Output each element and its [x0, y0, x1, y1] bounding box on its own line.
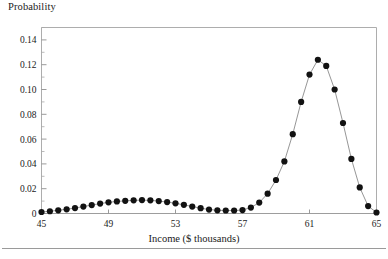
svg-text:49: 49 — [104, 219, 114, 229]
svg-text:0.04: 0.04 — [20, 159, 37, 169]
chart-plot-area: 00.020.040.060.080.100.120.14 4549535761… — [0, 0, 388, 230]
figure-footnote — [4, 251, 384, 259]
svg-text:0.10: 0.10 — [20, 85, 37, 95]
plot-frame — [42, 28, 377, 214]
data-line — [42, 60, 377, 213]
svg-text:0.12: 0.12 — [20, 60, 37, 70]
svg-text:57: 57 — [238, 219, 248, 229]
data-markers — [38, 57, 379, 216]
svg-text:0: 0 — [32, 209, 37, 219]
x-axis-label: Income ($ thousands) — [0, 233, 388, 244]
x-tick-labels: 454953576165 — [37, 219, 382, 229]
svg-text:65: 65 — [372, 219, 382, 229]
horizontal-rule — [2, 248, 386, 249]
svg-text:0.06: 0.06 — [20, 135, 37, 145]
svg-text:45: 45 — [37, 219, 47, 229]
svg-text:0.14: 0.14 — [20, 35, 37, 45]
figure-container: Probability 00.020.040.060.080.100.120.1… — [0, 0, 388, 259]
axis-ticks — [42, 28, 377, 214]
svg-text:61: 61 — [305, 219, 315, 229]
y-tick-labels: 00.020.040.060.080.100.120.14 — [20, 35, 37, 219]
svg-text:0.08: 0.08 — [20, 110, 37, 120]
svg-text:53: 53 — [171, 219, 181, 229]
svg-text:0.02: 0.02 — [20, 184, 37, 194]
